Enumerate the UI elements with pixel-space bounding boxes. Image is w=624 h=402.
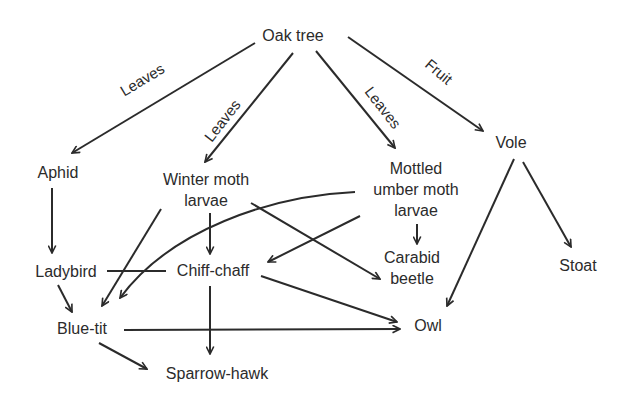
node-mottled-line3: larvae	[373, 200, 458, 221]
edge-mottled-chiff-chaff	[268, 216, 360, 262]
food-web-diagram: Leaves Leaves Leaves Fruit Oak tree Aphi…	[0, 0, 624, 402]
edge-ladybird-blue-tit	[58, 285, 72, 312]
node-owl: Owl	[414, 315, 442, 336]
node-blue-tit: Blue-tit	[57, 318, 107, 339]
edge-oak-winter-moth	[205, 53, 293, 162]
edge-winter-moth-carabid	[251, 203, 380, 279]
edge-oak-vole	[348, 37, 483, 131]
node-mottled-umber-moth-larvae: Mottled umber moth larvae	[373, 158, 458, 221]
node-winter-moth-larvae: Winter moth larvae	[163, 169, 249, 211]
edge-vole-stoat	[523, 162, 571, 247]
node-carabid-line1: Carabid	[384, 247, 440, 268]
node-vole: Vole	[495, 132, 526, 153]
node-carabid-beetle: Carabid beetle	[384, 247, 440, 289]
edge-winter-moth-blue-tit	[102, 209, 161, 306]
edge-blue-tit-owl	[124, 329, 400, 330]
edges-layer	[0, 0, 624, 402]
node-winter-moth-line1: Winter moth	[163, 169, 249, 190]
node-chiff-chaff: Chiff-chaff	[177, 260, 249, 281]
edge-chiff-chaff-owl	[261, 276, 397, 322]
node-ladybird: Ladybird	[35, 261, 96, 282]
node-stoat: Stoat	[559, 255, 596, 276]
edge-blue-tit-sparrow-hawk	[99, 343, 147, 369]
node-oak-tree: Oak tree	[262, 25, 323, 46]
node-mottled-line2: umber moth	[373, 179, 458, 200]
node-mottled-line1: Mottled	[373, 158, 458, 179]
node-winter-moth-line2: larvae	[163, 190, 249, 211]
node-carabid-line2: beetle	[384, 268, 440, 289]
node-sparrow-hawk: Sparrow-hawk	[166, 363, 268, 384]
node-aphid: Aphid	[38, 162, 79, 183]
